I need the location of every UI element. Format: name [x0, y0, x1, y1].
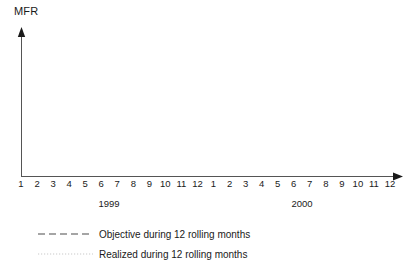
tick-label: 12	[385, 177, 396, 191]
y-axis-arrowhead	[18, 27, 25, 37]
tick-label: 7	[115, 177, 120, 191]
legend-item-objective: Objective during 12 rolling months	[38, 224, 368, 244]
chart-container: MFR 1 2 3 4 5 6 7 8 9 10 11 12 1 2 3 4 5…	[0, 0, 420, 273]
tick-label: 4	[259, 177, 264, 191]
tick-label: 12	[192, 177, 203, 191]
tick-label: 11	[369, 177, 379, 191]
tick-label: 1	[18, 177, 23, 191]
legend-label-realized: Realized during 12 rolling months	[93, 248, 247, 261]
tick-label: 6	[99, 177, 104, 191]
legend-label-objective: Objective during 12 rolling months	[93, 228, 250, 241]
chart-legend: Objective during 12 rolling months Reali…	[38, 224, 368, 264]
tick-label: 8	[131, 177, 136, 191]
tick-label: 7	[307, 177, 312, 191]
tick-label: 5	[83, 177, 88, 191]
tick-label: 8	[323, 177, 328, 191]
x-axis-tick-labels: 1 2 3 4 5 6 7 8 9 10 11 12 1 2 3 4 5 6 7…	[21, 177, 390, 191]
tick-label: 2	[227, 177, 232, 191]
tick-label: 4	[66, 177, 71, 191]
tick-label: 3	[50, 177, 55, 191]
tick-label: 5	[275, 177, 280, 191]
x-axis-year-label-2000: 2000	[291, 197, 312, 210]
dotted-line-icon	[38, 249, 93, 259]
tick-label: 11	[176, 177, 186, 191]
tick-label: 2	[34, 177, 39, 191]
x-axis-year-label-1999: 1999	[98, 197, 119, 210]
tick-label: 6	[291, 177, 296, 191]
tick-label: 1	[211, 177, 216, 191]
tick-label: 10	[160, 177, 171, 191]
tick-label: 10	[353, 177, 364, 191]
dashed-line-icon	[38, 229, 93, 239]
tick-label: 9	[339, 177, 344, 191]
tick-label: 3	[243, 177, 248, 191]
tick-label: 9	[147, 177, 152, 191]
legend-item-realized: Realized during 12 rolling months	[38, 244, 368, 264]
